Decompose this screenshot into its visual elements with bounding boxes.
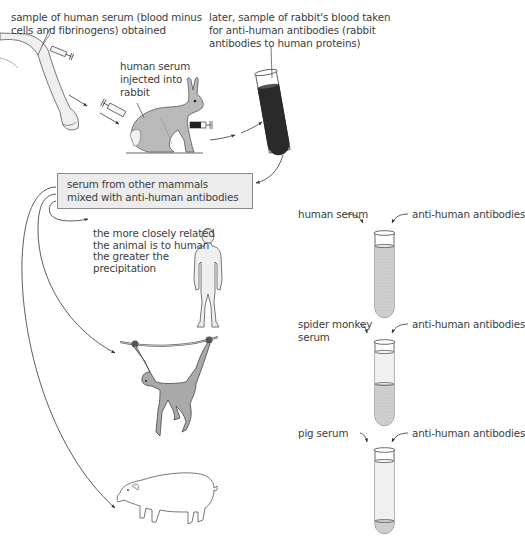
tube3-antibody-label: anti-human antibodies: [412, 427, 525, 440]
label-line: the more closely related: [93, 228, 215, 240]
tube2-antibody-label: anti-human antibodies: [412, 318, 525, 331]
pig-figure: [117, 473, 217, 524]
test-tube-spider-monkey: [374, 340, 395, 426]
blood-syringe-icon: [190, 121, 212, 129]
tube3-serum-label: pig serum: [298, 427, 348, 440]
arrow-arm-to-rabbit: [69, 95, 87, 106]
test-tube-human: [374, 231, 395, 318]
label-line: spider monkey: [298, 318, 372, 331]
label-line: human serum: [120, 60, 190, 73]
label-line: serum: [298, 331, 372, 344]
arrow-rabbit-to-tube: [210, 135, 235, 140]
tube1-antibody-label: anti-human antibodies: [412, 208, 525, 221]
label-line: rabbit: [120, 86, 190, 99]
rabbit-blood-label: later, sample of rabbit's blood taken fo…: [209, 11, 390, 50]
conclusion-label: the more closely related the animal is t…: [93, 228, 215, 274]
box-line: serum from other mammals: [67, 178, 252, 191]
injected-label: human serum injected into rabbit: [120, 60, 190, 99]
box-line: mixed with anti-human antibodies: [67, 191, 252, 204]
arrow-rabbit-to-tube-2: [241, 122, 262, 133]
arrow-tube2-antibody: [392, 324, 408, 333]
blood-test-tube: [254, 68, 292, 157]
tube2-serum-label: spider monkey serum: [298, 318, 372, 344]
serum-mix-box: serum from other mammals mixed with anti…: [57, 173, 253, 209]
arrow-tube3-serum: [360, 433, 367, 442]
syringe-icon: [50, 45, 74, 60]
label-line: cells and fibrinogens) obtained: [11, 24, 202, 37]
arrow-tube3-antibody: [392, 433, 408, 442]
syringe-icon: [101, 99, 127, 118]
label-line: the greater the: [93, 251, 215, 263]
spider-monkey-figure: [120, 337, 218, 437]
arrow-tube-to-box: [256, 155, 283, 183]
label-line: later, sample of rabbit's blood taken: [209, 11, 390, 24]
label-line: sample of human serum (blood minus: [11, 11, 202, 24]
label-line: injected into: [120, 73, 190, 86]
serum-sample-label: sample of human serum (blood minus cells…: [11, 11, 202, 37]
tube1-serum-label: human serum: [298, 208, 368, 221]
arrow-tube1-antibody: [392, 214, 408, 223]
label-line: antibodies to human proteins): [209, 37, 390, 50]
arrow-arm-to-rabbit-2: [100, 113, 119, 124]
test-tube-pig: [374, 448, 395, 534]
human-arm-figure: [0, 28, 79, 130]
label-line: for anti-human antibodies (rabbit: [209, 24, 390, 37]
label-line: precipitation: [93, 263, 215, 275]
